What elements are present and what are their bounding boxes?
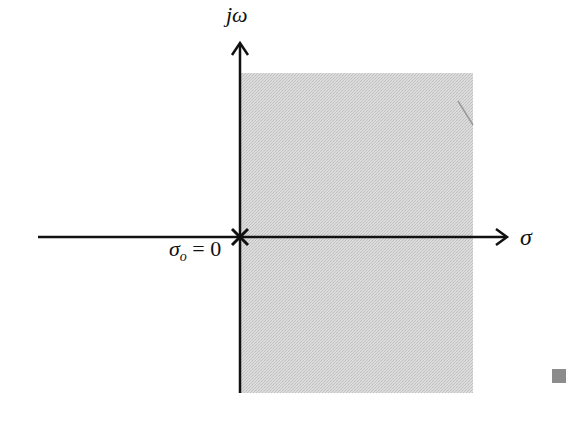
s-plane-diagram	[0, 0, 575, 425]
origin-equals-zero: = 0	[187, 236, 221, 261]
jw-axis-label: jω	[226, 2, 248, 28]
sigma-axis-label: σ	[520, 224, 532, 251]
corner-square-icon	[552, 369, 566, 383]
origin-sigma: σ	[169, 236, 180, 261]
origin-label: σo = 0	[169, 236, 221, 265]
convergence-region	[241, 73, 473, 393]
origin-subscript: o	[180, 249, 187, 264]
